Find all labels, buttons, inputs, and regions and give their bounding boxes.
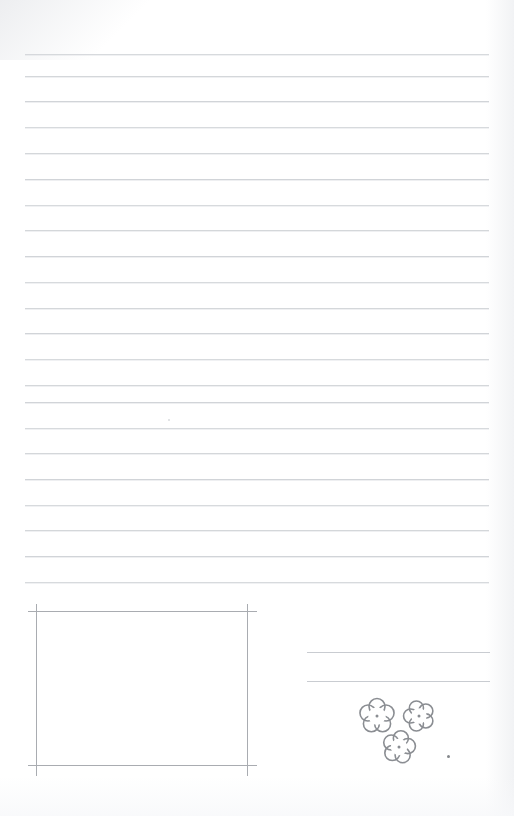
scan-shadow-bottom-edge xyxy=(0,776,514,816)
drawing-box xyxy=(0,0,514,816)
writing-line xyxy=(25,402,489,403)
writing-line xyxy=(25,230,489,231)
writing-line xyxy=(25,54,489,55)
writing-line xyxy=(25,530,489,531)
drawing-box-right-edge xyxy=(247,604,248,776)
writing-line xyxy=(25,556,489,557)
writing-line xyxy=(25,453,489,454)
writing-line xyxy=(25,76,489,77)
drawing-box-left-edge xyxy=(36,604,37,776)
short-answer-line xyxy=(307,652,490,653)
writing-line xyxy=(25,385,489,386)
writing-line xyxy=(25,205,489,206)
writing-line xyxy=(25,505,489,506)
drawing-box-bottom-edge xyxy=(28,765,257,766)
short-answer-line xyxy=(307,681,490,682)
writing-line xyxy=(25,101,489,102)
scanned-page xyxy=(0,0,514,816)
writing-line xyxy=(25,127,489,128)
writing-line xyxy=(25,153,489,154)
writing-line xyxy=(25,428,489,429)
faint-speck xyxy=(168,419,170,421)
writing-line xyxy=(25,479,489,480)
ink-speck xyxy=(447,755,450,758)
scan-shadow-top-left xyxy=(0,0,150,60)
writing-line xyxy=(25,582,489,583)
flower-doodle-3 xyxy=(380,728,418,766)
writing-line xyxy=(25,308,489,309)
writing-line xyxy=(25,179,489,180)
drawing-box-top-edge xyxy=(28,611,257,612)
writing-line xyxy=(25,256,489,257)
writing-line xyxy=(25,333,489,334)
scan-shadow-right-edge xyxy=(486,0,514,816)
writing-line xyxy=(25,282,489,283)
writing-line xyxy=(25,359,489,360)
